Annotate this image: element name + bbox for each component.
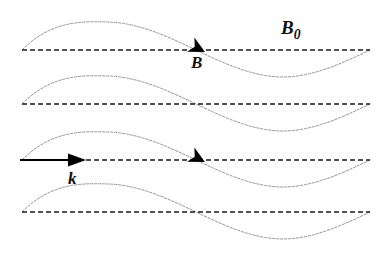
label-b: B	[191, 54, 202, 71]
wave-diagram-canvas	[0, 0, 390, 255]
label-b-zero: B0	[281, 18, 301, 41]
label-k: k	[68, 170, 77, 187]
label-b-zero-subscript: 0	[294, 27, 301, 42]
label-b-zero-letter: B	[281, 17, 294, 38]
diagram-background	[0, 0, 390, 255]
